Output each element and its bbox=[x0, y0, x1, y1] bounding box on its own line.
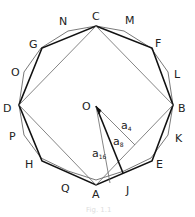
label-D: D bbox=[3, 102, 11, 115]
label-J: J bbox=[125, 184, 129, 197]
label-a16: a16 bbox=[92, 147, 107, 160]
label-M: M bbox=[125, 14, 135, 27]
label-center-O: O bbox=[82, 100, 91, 113]
label-L: L bbox=[174, 68, 181, 81]
label-a8: a8 bbox=[113, 135, 124, 148]
label-H: H bbox=[25, 158, 33, 171]
label-Q: Q bbox=[61, 182, 70, 195]
label-B: B bbox=[178, 102, 186, 115]
geometry-diagram: C M F L B K E J A Q H P D O G N O a4 a8 … bbox=[0, 0, 195, 217]
label-P: P bbox=[9, 130, 16, 143]
label-E: E bbox=[156, 158, 163, 171]
label-G: G bbox=[29, 38, 38, 51]
figure-caption: Fig. 1.1 bbox=[86, 206, 112, 214]
label-N: N bbox=[59, 15, 67, 28]
label-A: A bbox=[92, 188, 100, 201]
label-O-vertex: O bbox=[11, 66, 20, 79]
label-a4: a4 bbox=[121, 119, 132, 132]
label-C: C bbox=[92, 10, 100, 23]
label-F: F bbox=[155, 37, 161, 50]
label-K: K bbox=[175, 132, 183, 145]
octagon bbox=[19, 26, 173, 185]
